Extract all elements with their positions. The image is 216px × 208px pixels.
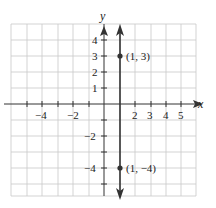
svg-text:3: 3 bbox=[147, 109, 153, 121]
svg-text:−2: −2 bbox=[67, 109, 79, 121]
vertical-line-x-equals-1 bbox=[116, 24, 124, 200]
svg-text:2: 2 bbox=[132, 109, 138, 121]
point-1-neg4 bbox=[117, 165, 122, 170]
coordinate-plane: x y −4 −2 2 3 4 5 4 3 2 1 −2 −4 (1, 3) (… bbox=[0, 0, 216, 208]
svg-text:−4: −4 bbox=[35, 109, 47, 121]
svg-text:2: 2 bbox=[92, 66, 98, 78]
y-axis bbox=[101, 24, 107, 196]
svg-text:3: 3 bbox=[92, 50, 98, 62]
x-tick-labels: −4 −2 2 3 4 5 bbox=[35, 109, 184, 121]
svg-text:−4: −4 bbox=[84, 162, 96, 174]
svg-text:4: 4 bbox=[92, 34, 98, 46]
y-axis-label: y bbox=[99, 9, 106, 23]
svg-text:−2: −2 bbox=[84, 130, 96, 142]
svg-text:1: 1 bbox=[92, 82, 98, 94]
x-axis bbox=[4, 101, 196, 107]
svg-text:5: 5 bbox=[178, 109, 184, 121]
x-axis-label: x bbox=[197, 97, 204, 111]
point-1-neg4-label: (1, −4) bbox=[126, 162, 156, 175]
svg-text:4: 4 bbox=[163, 109, 169, 121]
point-1-3-label: (1, 3) bbox=[126, 50, 150, 63]
point-1-3 bbox=[117, 53, 122, 58]
